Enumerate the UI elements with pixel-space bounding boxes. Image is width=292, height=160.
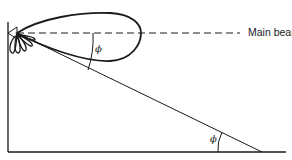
angle-label-upper: ϕ [95, 43, 102, 54]
diagram-graphic [0, 0, 292, 160]
angle-arc-lower [218, 132, 222, 152]
main-lobe [17, 13, 141, 61]
main-beam-label: Main bean [248, 26, 292, 38]
angle-label-lower: ϕ [210, 133, 217, 144]
diagram-canvas: Main bean ϕ ϕ [0, 0, 292, 160]
angle-arc-upper [88, 33, 93, 70]
side-lobes [10, 35, 35, 53]
slant-line [17, 33, 262, 152]
